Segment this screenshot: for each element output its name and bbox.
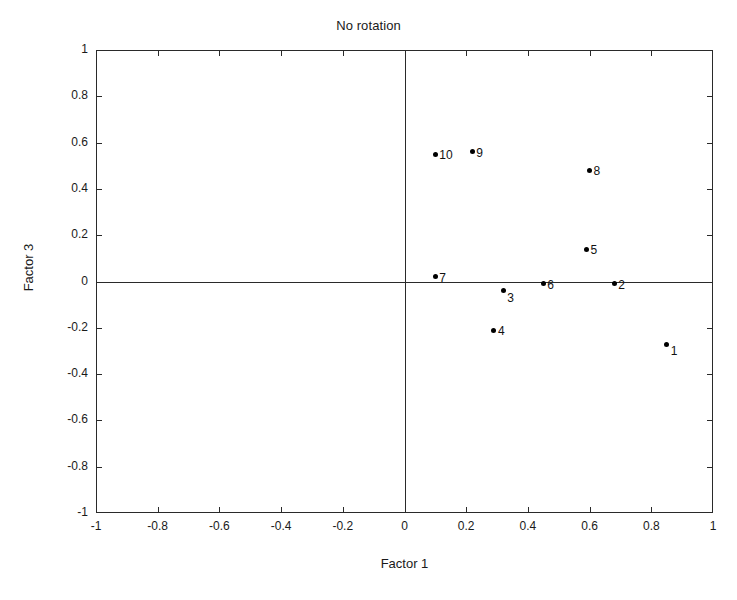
- data-point-label: 4: [498, 325, 505, 337]
- x-tick-mark: [528, 50, 529, 56]
- x-tick-label: 1: [683, 519, 737, 533]
- data-point-marker: [587, 168, 592, 173]
- data-point-label: 3: [507, 292, 514, 304]
- data-point-label: 5: [591, 244, 598, 256]
- y-tick-label: 0.4: [38, 181, 88, 195]
- x-tick-mark: [281, 507, 282, 513]
- y-tick-mark: [707, 96, 713, 97]
- data-point-label: 1: [671, 345, 678, 357]
- x-tick-mark: [466, 50, 467, 56]
- y-tick-mark: [707, 189, 713, 190]
- y-tick-label: -1: [38, 505, 88, 519]
- y-tick-mark: [707, 374, 713, 375]
- x-tick-label: -0.8: [128, 519, 188, 533]
- data-point-label: 10: [439, 149, 452, 161]
- y-tick-label: -0.8: [38, 459, 88, 473]
- x-tick-mark: [158, 507, 159, 513]
- y-tick-label: 0: [38, 274, 88, 288]
- x-tick-label: 0.2: [436, 519, 496, 533]
- data-point-label: 8: [594, 165, 601, 177]
- y-tick-mark: [96, 235, 102, 236]
- x-tick-label: -0.2: [313, 519, 373, 533]
- y-axis-label: Factor 3: [21, 208, 36, 328]
- y-tick-mark: [707, 467, 713, 468]
- y-tick-mark: [707, 420, 713, 421]
- y-tick-label: 0.8: [38, 88, 88, 102]
- x-tick-label: 0.8: [621, 519, 681, 533]
- x-tick-mark: [466, 507, 467, 513]
- y-tick-label: 1: [38, 42, 88, 56]
- x-tick-label: -0.6: [189, 519, 249, 533]
- data-point-marker: [664, 342, 669, 347]
- y-tick-mark: [96, 189, 102, 190]
- x-tick-label: -0.4: [251, 519, 311, 533]
- x-tick-mark: [343, 50, 344, 56]
- x-tick-label: -1: [66, 519, 126, 533]
- y-tick-mark: [96, 143, 102, 144]
- x-tick-mark: [343, 507, 344, 513]
- y-tick-label: -0.6: [38, 412, 88, 426]
- x-tick-label: 0.4: [498, 519, 558, 533]
- x-axis-label: Factor 1: [96, 556, 713, 571]
- x-tick-mark: [651, 507, 652, 513]
- data-point-label: 9: [476, 147, 483, 159]
- data-point-label: 6: [547, 279, 554, 291]
- y-tick-label: -0.4: [38, 366, 88, 380]
- y-tick-label: 0.6: [38, 135, 88, 149]
- data-point-marker: [501, 288, 506, 293]
- data-point-marker: [433, 152, 438, 157]
- y-tick-mark: [96, 328, 102, 329]
- data-point-label: 7: [439, 272, 446, 284]
- y-tick-mark: [96, 96, 102, 97]
- x-tick-mark: [651, 50, 652, 56]
- x-tick-mark: [219, 507, 220, 513]
- chart-title: No rotation: [0, 18, 737, 33]
- y-tick-label: 0.2: [38, 227, 88, 241]
- y-tick-mark: [707, 143, 713, 144]
- y-tick-mark: [96, 420, 102, 421]
- x-tick-mark: [219, 50, 220, 56]
- data-point-label: 2: [618, 279, 625, 291]
- y-tick-label: -0.2: [38, 320, 88, 334]
- data-point-marker: [584, 247, 589, 252]
- scatter-plot-figure: No rotation Factor 3 -1-0.8-0.6-0.4-0.20…: [0, 0, 737, 600]
- x-tick-label: 0.6: [560, 519, 620, 533]
- y-tick-mark: [707, 328, 713, 329]
- y-tick-mark: [707, 235, 713, 236]
- x-tick-mark: [158, 50, 159, 56]
- x-tick-mark: [590, 50, 591, 56]
- y-tick-mark: [96, 374, 102, 375]
- x-tick-mark: [528, 507, 529, 513]
- x-tick-mark: [590, 507, 591, 513]
- x-tick-label: 0: [375, 519, 435, 533]
- y-tick-mark: [96, 467, 102, 468]
- x-tick-mark: [281, 50, 282, 56]
